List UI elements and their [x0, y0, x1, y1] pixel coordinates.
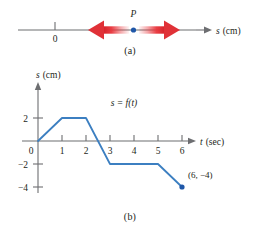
point-p-label: P: [130, 9, 137, 19]
x-axis-arrowhead-icon: [188, 138, 196, 144]
panel-a-number-line: 0 P s(cm): [0, 0, 260, 66]
endpoint-marker: [179, 184, 184, 189]
x-tick-labels: 1 2 3 4 5 6: [60, 146, 185, 156]
x-tick-label-5: 5: [156, 146, 161, 156]
x-axis-label: t(sec): [200, 137, 224, 148]
y-tick-label-neg4: −4: [18, 183, 28, 193]
y-tick-label-2: 2: [23, 114, 28, 124]
x-tick-label-2: 2: [84, 146, 89, 156]
panel-a-svg: 0 P s(cm): [0, 0, 260, 66]
x-tick-label-3: 3: [108, 146, 113, 156]
figure-container: 0 P s(cm) (a): [0, 0, 260, 232]
y-axis-var: s: [36, 70, 40, 80]
caption-a: (a): [0, 45, 260, 56]
y-axis-arrowhead-icon: [35, 82, 41, 90]
x-axis-unit: (sec): [206, 137, 224, 148]
y-tick-labels: 2 −2 −4: [18, 114, 28, 193]
x-axis: [22, 138, 196, 144]
panel-a-axis-unit: (cm): [223, 26, 241, 37]
y-axis: [35, 82, 41, 193]
y-axis-label: s(cm): [36, 70, 61, 81]
caption-b: (b): [0, 211, 260, 222]
y-axis-unit: (cm): [43, 70, 61, 81]
x-tick-label-4: 4: [132, 146, 137, 156]
number-line-arrowhead-icon: [204, 27, 212, 34]
graph-origin-label: 0: [29, 146, 34, 156]
function-label: s = f(t): [111, 98, 137, 109]
x-ticks: [62, 135, 182, 141]
x-tick-label-6: 6: [180, 146, 185, 156]
x-tick-label-1: 1: [60, 146, 65, 156]
origin-tick-label: 0: [53, 34, 58, 44]
point-p-marker: [131, 27, 136, 32]
panel-b-graph: 1 2 3 4 5 6 0 2 −2 −4 s(cm): [0, 66, 260, 232]
panel-a-axis-var: s: [216, 26, 220, 36]
right-motion-arrow-icon: [139, 21, 180, 40]
panel-a-axis-label: s(cm): [216, 26, 241, 37]
y-tick-label-neg2: −2: [18, 160, 28, 170]
x-axis-var: t: [200, 137, 203, 147]
graph-svg: 1 2 3 4 5 6 0 2 −2 −4 s(cm): [0, 66, 260, 232]
left-motion-arrow-icon: [88, 21, 129, 40]
endpoint-label: (6, −4): [188, 170, 213, 180]
